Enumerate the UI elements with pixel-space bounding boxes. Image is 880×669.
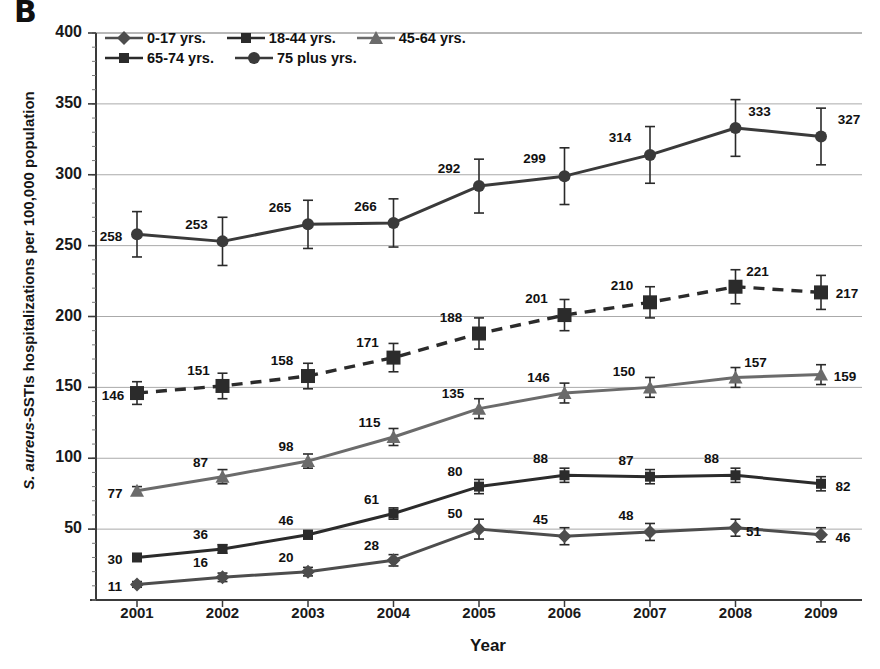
data-point-label: 46 [835, 529, 850, 544]
data-point-marker [301, 369, 315, 383]
data-point-label: 82 [835, 478, 850, 493]
data-point-marker [217, 235, 229, 247]
legend-marker-glyph [248, 52, 260, 64]
data-point-label: 87 [193, 454, 208, 469]
data-point-label: 151 [187, 362, 210, 377]
data-point-label: 150 [613, 364, 636, 379]
data-point-label: 45 [533, 512, 548, 527]
data-point-marker [130, 386, 144, 400]
data-point-label: 258 [100, 229, 123, 244]
data-point-label: 77 [107, 485, 122, 500]
legend-marker [104, 31, 144, 45]
data-point-label: 88 [533, 451, 548, 466]
series-0 [130, 519, 828, 591]
legend-item-2[interactable]: 45-64 yrs. [356, 30, 466, 46]
legend-marker-glyph [119, 53, 129, 63]
legend-item-0[interactable]: 0-17 yrs. [104, 30, 206, 46]
legend-marker [226, 31, 266, 45]
data-point-marker [132, 552, 142, 562]
series-3 [130, 270, 828, 405]
legend-label: 0-17 yrs. [147, 30, 206, 46]
legend-marker [356, 31, 396, 45]
data-point-marker [473, 180, 485, 192]
data-point-marker [472, 327, 486, 341]
data-point-label: 188 [440, 309, 463, 324]
data-point-marker [643, 525, 657, 539]
data-point-label: 146 [102, 388, 125, 403]
legend-item-1[interactable]: 18-44 yrs. [226, 30, 336, 46]
legend-item-3[interactable]: 65-74 yrs. [104, 50, 214, 66]
data-point-marker [218, 544, 228, 554]
data-point-label: 333 [748, 103, 771, 118]
data-point-marker [814, 285, 828, 299]
data-point-label: 221 [746, 263, 769, 278]
data-point-marker [645, 472, 655, 482]
data-point-label: 327 [838, 112, 861, 127]
data-point-label: 16 [193, 555, 208, 570]
data-point-marker [302, 218, 314, 230]
data-point-marker [815, 130, 827, 142]
data-point-label: 201 [525, 291, 548, 306]
data-point-label: 28 [364, 538, 379, 553]
legend-label: 45-64 yrs. [399, 30, 466, 46]
data-point-marker [729, 521, 743, 535]
series-1 [132, 468, 826, 562]
data-point-label: 253 [185, 217, 208, 232]
data-point-label: 265 [269, 200, 292, 215]
data-point-label: 217 [836, 286, 859, 301]
data-point-marker [389, 509, 399, 519]
data-point-label: 157 [744, 355, 767, 370]
legend-label: 18-44 yrs. [269, 30, 336, 46]
data-point-marker [643, 295, 657, 309]
data-point-marker [730, 122, 742, 134]
data-point-label: 61 [364, 491, 379, 506]
legend-row: 65-74 yrs.75 plus yrs. [104, 50, 534, 66]
data-point-label: 135 [442, 385, 465, 400]
data-point-marker [216, 379, 230, 393]
data-point-label: 46 [278, 512, 293, 527]
data-point-label: 171 [356, 334, 379, 349]
data-point-label: 87 [618, 452, 633, 467]
data-point-marker [558, 529, 572, 543]
data-point-label: 158 [271, 353, 294, 368]
data-point-marker [131, 228, 143, 240]
data-point-marker [130, 577, 144, 591]
data-point-label: 146 [527, 370, 550, 385]
data-point-label: 20 [278, 549, 293, 564]
data-point-label: 50 [447, 506, 462, 521]
data-point-label: 98 [278, 439, 293, 454]
legend-item-4[interactable]: 75 plus yrs. [234, 50, 357, 66]
data-point-label: 11 [108, 579, 122, 594]
data-point-marker [814, 528, 828, 542]
data-point-marker [816, 479, 826, 489]
legend-row: 0-17 yrs.18-44 yrs.45-64 yrs. [104, 30, 534, 46]
data-point-label: 314 [609, 129, 632, 144]
data-point-marker [387, 351, 401, 365]
data-point-marker [729, 280, 743, 294]
legend-marker-glyph [117, 31, 131, 45]
data-point-marker [558, 308, 572, 322]
data-point-label: 80 [447, 463, 462, 478]
series-4 [131, 100, 827, 266]
data-point-marker [560, 470, 570, 480]
data-point-label: 115 [359, 414, 381, 429]
data-point-label: 210 [611, 278, 634, 293]
data-point-marker [472, 522, 486, 536]
data-point-label: 30 [107, 552, 122, 567]
series-line [137, 375, 821, 491]
data-point-marker [388, 217, 400, 229]
plot-area [0, 0, 880, 669]
data-point-marker [559, 170, 571, 182]
data-point-label: 88 [704, 451, 719, 466]
data-point-marker [731, 470, 741, 480]
data-point-label: 299 [523, 151, 546, 166]
legend-marker [104, 51, 144, 65]
data-point-label: 51 [746, 523, 761, 538]
data-point-label: 266 [354, 198, 377, 213]
legend-marker [234, 51, 274, 65]
data-point-label: 36 [193, 526, 208, 541]
figure-panel-b: B S. aureus-SSTIs hospitalizations per 1… [0, 0, 880, 669]
legend-marker-glyph [241, 33, 251, 43]
data-point-label: 48 [618, 507, 633, 522]
legend-label: 65-74 yrs. [147, 50, 214, 66]
